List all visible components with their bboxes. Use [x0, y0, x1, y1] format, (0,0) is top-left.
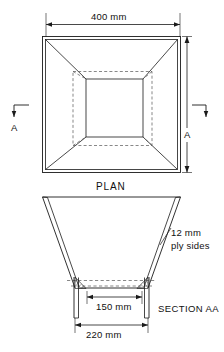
- section-mark-left-label: A: [11, 123, 18, 133]
- dimension-label-outer-width: 220 mm: [86, 330, 122, 340]
- section-fillet-left: [75, 277, 86, 289]
- section-fillet-right: [137, 277, 148, 289]
- plan-right-dimension: [182, 37, 192, 173]
- plan-view: [14, 13, 206, 173]
- plan-fold-lines: [46, 40, 178, 170]
- dimension-label-inner-width: 150 mm: [96, 302, 132, 312]
- view-title-plan: PLAN: [96, 182, 126, 192]
- technical-drawing-page: 400 mm A A PLAN 12 mm ply sides 150 mm 2…: [0, 0, 224, 352]
- section-left-wall: [43, 197, 80, 288]
- plan-inner-opening: [86, 79, 143, 137]
- view-title-section-aa: SECTION AA: [158, 304, 219, 314]
- note-ply-thickness: 12 mm: [171, 228, 201, 238]
- dimension-label-top-width: 400 mm: [91, 12, 127, 22]
- plan-vertical-dimension-label: A: [184, 130, 191, 140]
- section-mark-right: [192, 105, 206, 117]
- section-mark-left: [14, 105, 29, 117]
- note-ply-sides: ply sides: [171, 241, 210, 251]
- plan-hidden-edges: [73, 72, 152, 146]
- hopper-drawing-svg: [0, 0, 224, 352]
